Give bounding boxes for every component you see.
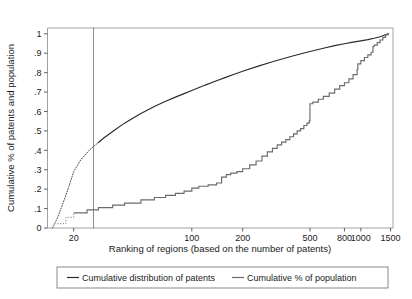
y-tick-label: .2 bbox=[34, 184, 42, 194]
y-tick-label: .1 bbox=[34, 204, 42, 214]
y-tick-label: .7 bbox=[34, 87, 42, 97]
legend-label-population: Cumulative % of population bbox=[247, 273, 357, 283]
chart-figure: 0.1.2.3.4.5.6.7.8.91 2010020050080010001… bbox=[0, 0, 412, 299]
x-tick-label: 500 bbox=[302, 233, 317, 243]
y-tick-label: .6 bbox=[34, 107, 42, 117]
chart-legend: Cumulative distribution of patents Cumul… bbox=[57, 267, 388, 288]
y-tick-label: .9 bbox=[34, 48, 42, 58]
y-tick-label: .8 bbox=[34, 68, 42, 78]
cumulative-distribution-chart: 0.1.2.3.4.5.6.7.8.91 2010020050080010001… bbox=[0, 0, 412, 299]
x-axis-title: Ranking of regions (based on the number … bbox=[109, 243, 331, 254]
x-tick-label: 1000 bbox=[351, 233, 371, 243]
x-tick-label: 1500 bbox=[381, 233, 401, 243]
y-tick-label: .4 bbox=[34, 146, 42, 156]
y-axis-title: Cumulative % of patents and population bbox=[5, 44, 16, 212]
x-tick-label: 200 bbox=[235, 233, 250, 243]
x-tick-label: 20 bbox=[69, 233, 79, 243]
chart-background bbox=[0, 0, 412, 299]
x-tick-label: 800 bbox=[337, 233, 352, 243]
x-tick-label: 100 bbox=[184, 233, 199, 243]
y-tick-label: 1 bbox=[36, 29, 41, 39]
y-tick-label: .5 bbox=[34, 126, 42, 136]
legend-label-patents: Cumulative distribution of patents bbox=[82, 273, 216, 283]
y-tick-label: 0 bbox=[36, 223, 41, 233]
y-tick-label: .3 bbox=[34, 165, 42, 175]
